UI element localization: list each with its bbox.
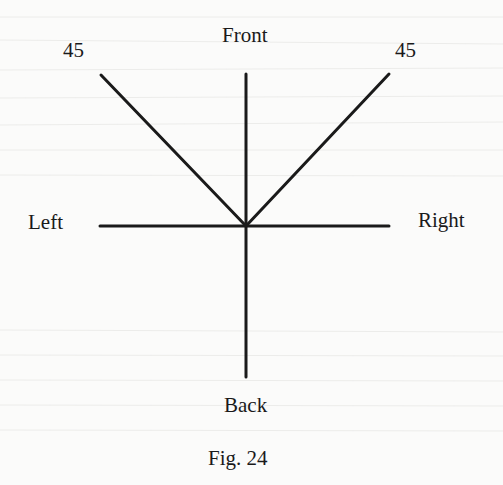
label-front: Front	[222, 25, 268, 46]
label-back: Back	[224, 395, 267, 416]
figure-caption: Fig. 24	[208, 448, 268, 469]
label-angle-right: 45	[395, 40, 416, 61]
label-right: Right	[418, 210, 465, 231]
label-angle-left: 45	[63, 40, 84, 61]
diagonal-right-line	[246, 74, 389, 226]
diagonal-left-line	[101, 75, 246, 226]
label-left: Left	[28, 212, 63, 233]
